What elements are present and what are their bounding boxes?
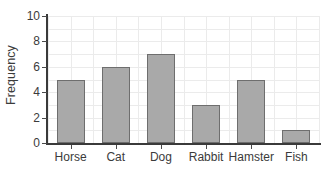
x-tick-label: Hamster <box>229 150 274 164</box>
bar[interactable] <box>192 105 220 143</box>
y-tick-mark <box>42 118 47 119</box>
bar[interactable] <box>147 54 175 143</box>
gridline-vertical <box>93 16 94 143</box>
y-tick-label: 0 <box>0 136 40 150</box>
gridline-vertical <box>138 16 139 143</box>
bar[interactable] <box>282 130 310 143</box>
gridline-vertical <box>184 16 185 143</box>
x-tick-label: Dog <box>150 150 172 164</box>
y-tick-mark <box>42 16 47 17</box>
x-tick-mark <box>161 145 162 149</box>
x-tick-label: Fish <box>285 150 308 164</box>
y-tick-mark <box>42 41 47 42</box>
x-tick-mark <box>71 145 72 149</box>
y-tick-label: 2 <box>0 111 40 125</box>
bar-chart: Frequency 0246810HorseCatDogRabbitHamste… <box>0 0 325 176</box>
x-tick-label: Rabbit <box>189 150 224 164</box>
x-axis-spine <box>46 143 321 145</box>
y-tick-label: 4 <box>0 85 40 99</box>
gridline-vertical <box>48 16 49 143</box>
y-tick-mark <box>42 92 47 93</box>
gridline-vertical <box>229 16 230 143</box>
gridline-vertical <box>274 16 275 143</box>
y-tick-label: 6 <box>0 60 40 74</box>
gridline-vertical <box>319 16 320 143</box>
x-tick-mark <box>206 145 207 149</box>
y-tick-mark <box>42 143 47 144</box>
y-tick-label: 10 <box>0 9 40 23</box>
bar[interactable] <box>237 80 265 144</box>
plot-area <box>48 16 319 143</box>
y-axis-spine <box>46 14 48 145</box>
x-tick-mark <box>251 145 252 149</box>
y-tick-label: 8 <box>0 34 40 48</box>
x-tick-label: Horse <box>55 150 87 164</box>
y-tick-mark <box>42 67 47 68</box>
x-tick-mark <box>296 145 297 149</box>
x-tick-mark <box>116 145 117 149</box>
bar[interactable] <box>57 80 85 144</box>
bar[interactable] <box>102 67 130 143</box>
x-tick-label: Cat <box>106 150 125 164</box>
gridline-vertical <box>296 16 297 143</box>
